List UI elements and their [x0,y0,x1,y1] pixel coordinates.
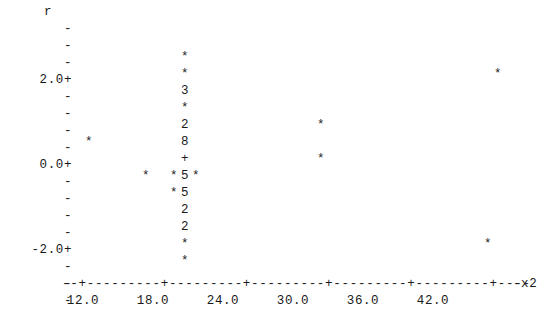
data-marker: 2 [176,203,194,217]
y-axis-tick-8: - [10,141,72,155]
y-axis-tick-5: - [10,90,72,104]
y-axis-tick-1: - [10,22,72,36]
y-axis-tick-label-neg-2-0: -2.0+ [10,243,72,257]
y-axis-tick-label-0-0: 0.0+ [10,158,72,172]
data-marker: * [176,50,194,64]
data-marker: * [176,101,194,115]
data-marker: 2 [176,118,194,132]
data-marker: * [187,169,205,183]
y-axis-tick-15: - [10,260,72,274]
x-axis-tick-label-18: 18.0 [133,294,173,308]
data-marker: * [176,67,194,81]
data-marker-origin: + [176,152,194,166]
data-marker: * [80,135,98,149]
data-marker: * [176,237,194,251]
data-marker: * [312,118,330,132]
data-marker: * [312,152,330,166]
y-axis-tick-7: - [10,124,72,138]
y-axis-tick-3: - [10,56,72,70]
y-axis-tick-12: - [10,209,72,223]
x-axis-title: -x2 [513,277,537,291]
x-axis-tick-label-36: 36.0 [343,294,383,308]
x-axis-tick-label-12: 12.0 [63,294,103,308]
data-marker: * [176,254,194,268]
y-axis-tick-2: - [10,39,72,53]
x-axis-tick-label-30: 30.0 [273,294,313,308]
y-axis-tick-10: - [10,175,72,189]
data-marker: 8 [176,135,194,149]
y-axis-tick-label-2-0: 2.0+ [10,73,72,87]
data-marker: * [137,169,155,183]
y-axis-tick-11: - [10,192,72,206]
data-marker: 2 [176,220,194,234]
ascii-scatter-plot: r - - - 2.0+ - - - - 0.0+ - - - - -2.0+ … [0,0,546,334]
data-marker: * [489,67,507,81]
data-marker: 3 [176,84,194,98]
x-axis-tick-label-42: 42.0 [413,294,453,308]
x-axis-line: --+---------+---------+---------+-------… [62,277,531,291]
y-axis-title: r [44,5,52,19]
y-axis-tick-6: - [10,107,72,121]
data-marker: 5 [176,186,194,200]
data-marker: * [479,237,497,251]
x-axis-tick-label-24: 24.0 [203,294,243,308]
y-axis-tick-13: - [10,226,72,240]
